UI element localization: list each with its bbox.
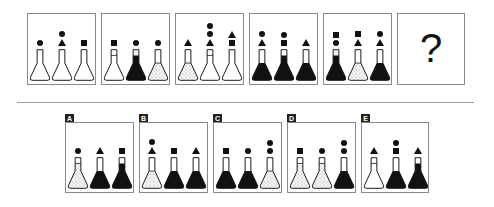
question-mark: ? [398, 26, 464, 71]
triangle-icon [58, 39, 66, 46]
symbol-stack [29, 40, 51, 46]
symbol-stack [221, 31, 243, 46]
symbol-stack [89, 147, 111, 154]
symbol-stack [147, 40, 169, 46]
triangle-icon [258, 39, 266, 46]
flask-icon [333, 156, 355, 190]
sequence-panel-4 [249, 13, 318, 85]
sequence-panel-5 [323, 13, 392, 85]
flask-icon [259, 156, 281, 190]
symbol-stack [103, 40, 125, 46]
square-icon [111, 40, 117, 46]
circle-icon [377, 31, 383, 37]
flask-item [111, 122, 133, 192]
flask-item [89, 122, 111, 192]
circle-icon [149, 139, 155, 145]
symbol-stack [163, 148, 185, 154]
flask-icon [363, 156, 385, 190]
flask-item [185, 122, 207, 192]
symbol-stack [289, 148, 311, 154]
flask-item [369, 14, 391, 84]
option-b[interactable] [139, 122, 208, 193]
flask-icon [295, 48, 317, 82]
flask-item [251, 14, 273, 84]
flask-icon [111, 156, 133, 190]
symbol-stack [177, 39, 199, 46]
divider [17, 102, 474, 103]
flask-item [221, 14, 243, 84]
square-icon [223, 148, 229, 154]
flask-item [237, 122, 259, 192]
symbol-stack [295, 39, 317, 46]
flask-icon [185, 156, 207, 190]
flask-item [141, 122, 163, 192]
flask-item [325, 14, 347, 84]
symbol-stack [141, 139, 163, 154]
option-c[interactable] [213, 122, 282, 193]
flask-icon [73, 48, 95, 82]
symbol-stack [67, 148, 89, 154]
square-icon [81, 40, 87, 46]
flask-icon [89, 156, 111, 190]
flask-item [407, 122, 429, 192]
square-icon [333, 32, 339, 38]
symbol-stack [73, 40, 95, 46]
symbol-stack [363, 147, 385, 154]
flask-icon [51, 48, 73, 82]
flask-icon [347, 48, 369, 82]
flask-icon [141, 156, 163, 190]
circle-icon [281, 32, 287, 38]
circle-icon [207, 31, 213, 37]
symbol-stack [311, 148, 333, 154]
square-icon [355, 31, 361, 37]
flask-item [295, 14, 317, 84]
symbol-stack [259, 140, 281, 154]
flask-item [163, 122, 185, 192]
triangle-icon [414, 147, 422, 154]
flask-icon [29, 48, 51, 82]
square-icon [229, 40, 235, 46]
option-e[interactable] [361, 122, 429, 193]
flask-item [147, 14, 169, 84]
triangle-icon [376, 39, 384, 46]
flask-item [363, 122, 385, 192]
flask-icon [125, 48, 147, 82]
symbol-stack [237, 148, 259, 154]
flask-icon [221, 48, 243, 82]
circle-icon [267, 148, 273, 154]
flask-item [215, 122, 237, 192]
flask-item [73, 14, 95, 84]
option-d[interactable] [287, 122, 356, 193]
circle-icon [245, 148, 251, 154]
symbol-stack [51, 31, 73, 46]
symbol-stack [199, 23, 221, 46]
flask-item [177, 14, 199, 84]
circle-icon [37, 40, 43, 46]
flask-icon [67, 156, 89, 190]
option-a[interactable] [65, 122, 134, 193]
circle-icon [319, 148, 325, 154]
circle-icon [333, 40, 339, 46]
flask-item [259, 122, 281, 192]
square-icon [297, 148, 303, 154]
flask-icon [407, 156, 429, 190]
flask-item [289, 122, 311, 192]
symbol-stack [369, 31, 391, 46]
flask-item [67, 122, 89, 192]
sequence-panel-1 [27, 13, 96, 85]
triangle-icon [370, 147, 378, 154]
triangle-icon [96, 147, 104, 154]
flask-item [103, 14, 125, 84]
flask-icon [251, 48, 273, 82]
flask-icon [147, 48, 169, 82]
flask-item [347, 14, 369, 84]
triangle-icon [228, 31, 236, 38]
circle-icon [133, 40, 139, 46]
flask-item [273, 14, 295, 84]
flask-icon [369, 48, 391, 82]
flask-item [125, 14, 147, 84]
circle-icon [207, 23, 213, 29]
sequence-panel-3 [175, 13, 244, 85]
circle-icon [155, 40, 161, 46]
triangle-icon [302, 39, 310, 46]
